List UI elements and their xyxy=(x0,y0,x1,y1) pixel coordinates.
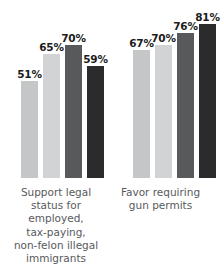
caption-line: immigrants xyxy=(2,252,110,265)
bar[interactable] xyxy=(43,54,60,178)
bar-value-label: 76% xyxy=(173,21,198,32)
bar-slot: 65% xyxy=(43,0,60,178)
bar[interactable] xyxy=(155,45,172,178)
bar-slot: 81% xyxy=(199,0,216,178)
caption-line: Favor requiring xyxy=(116,186,205,199)
caption-line: non-felon illegal xyxy=(2,239,110,252)
bar[interactable] xyxy=(133,50,150,178)
bar-value-label: 67% xyxy=(129,38,154,49)
bar-group-support-legal-status: 51% 65% 70% 59% xyxy=(21,0,103,178)
bar-value-label: 70% xyxy=(61,33,86,44)
bar-value-label: 81% xyxy=(195,12,220,23)
bar[interactable] xyxy=(199,24,216,178)
bar-value-label: 59% xyxy=(83,54,108,65)
plot-area: 51% 65% 70% 59% 67% 70% xyxy=(0,0,205,178)
bar-value-label: 70% xyxy=(151,33,176,44)
bar-slot: 67% xyxy=(133,0,150,178)
caption-line: gun permits xyxy=(116,199,205,212)
bar-slot: 76% xyxy=(177,0,194,178)
bar-value-label: 51% xyxy=(17,69,42,80)
bar-slot: 51% xyxy=(21,0,38,178)
caption-line: tax-paying, xyxy=(2,226,110,239)
bar[interactable] xyxy=(65,45,82,178)
bar[interactable] xyxy=(87,66,104,178)
bar-slot: 70% xyxy=(65,0,82,178)
caption-line: status for employed, xyxy=(2,199,110,225)
bar-group-favor-gun-permits: 67% 70% 76% 81% xyxy=(133,0,201,178)
bar-slot: 70% xyxy=(155,0,172,178)
category-captions: Support legal status for employed, tax-p… xyxy=(0,186,205,253)
caption-line: Support legal xyxy=(2,186,110,199)
bar-value-label: 65% xyxy=(39,42,64,53)
bar-slot: 59% xyxy=(87,0,104,178)
bar[interactable] xyxy=(177,33,194,178)
category-label-support-legal-status: Support legal status for employed, tax-p… xyxy=(2,186,110,265)
category-label-favor-gun-permits: Favor requiring gun permits xyxy=(116,186,205,212)
bar[interactable] xyxy=(21,81,38,178)
